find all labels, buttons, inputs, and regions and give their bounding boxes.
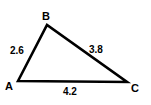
vertex-label-c: C — [131, 82, 139, 94]
side-label-ac: 4.2 — [63, 86, 77, 97]
vertex-label-b: B — [42, 10, 50, 22]
vertex-label-a: A — [5, 80, 13, 92]
triangle-diagram: B A C 2.6 3.8 4.2 — [0, 0, 151, 105]
triangle-abc — [18, 25, 127, 82]
side-label-bc: 3.8 — [89, 44, 103, 55]
side-label-ab: 2.6 — [10, 45, 24, 56]
